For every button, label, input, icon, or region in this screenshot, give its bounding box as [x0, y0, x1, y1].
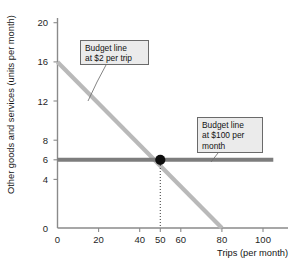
x-ticklabel-0: 0	[55, 234, 60, 245]
callout-price-budget-line: Budget line at $2 per trip	[80, 40, 149, 65]
x-ticklabel-80: 80	[217, 234, 228, 245]
y-ticklabel-4: 4	[43, 174, 48, 185]
y-ticklabel-16: 16	[37, 56, 48, 67]
y-ticklabel-12: 12	[37, 96, 48, 107]
x-ticklabel-100: 100	[255, 234, 271, 245]
figure-container: 20 16 12 8 6 4 0 0 20 40 50 60 80 100 Ot…	[0, 0, 302, 263]
x-ticklabel-50: 50	[155, 234, 166, 245]
y-ticklabel-20: 20	[37, 17, 48, 28]
y-ticklabel-8: 8	[43, 135, 48, 146]
intersection-point	[155, 155, 165, 165]
x-ticklabel-60: 60	[176, 234, 187, 245]
x-ticklabel-40: 40	[134, 234, 145, 245]
y-ticklabel-6: 6	[43, 154, 48, 165]
callout-price-leader	[88, 65, 106, 101]
x-ticklabel-20: 20	[93, 234, 104, 245]
y-axis-title: Other goods and services (units per mont…	[6, 15, 16, 194]
callout-income-budget-line: Budget line at $100 per month	[197, 117, 263, 153]
figure-caption	[22, 254, 292, 263]
y-ticklabel-0: 0	[43, 223, 48, 234]
